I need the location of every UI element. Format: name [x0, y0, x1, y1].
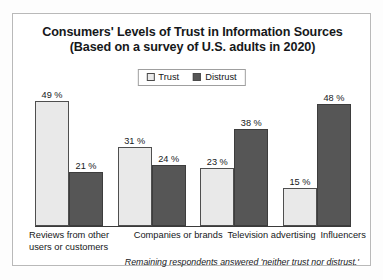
bar-value-reviews-trust: 49 %	[22, 90, 82, 100]
bar-influencers-distrust	[317, 104, 351, 226]
bar-wrap-influencers-distrust: 48 %	[317, 100, 351, 226]
category-label-influencers-line1: Influencers	[320, 230, 365, 240]
chart-page: Consumers' Levels of Trust in Informatio…	[0, 0, 383, 280]
bar-value-television-distrust: 38 %	[221, 118, 281, 128]
bar-group-companies: 31 % 24 %	[118, 100, 186, 226]
chart-title: Consumers' Levels of Trust in Informatio…	[13, 25, 372, 55]
legend-label-trust: Trust	[158, 72, 179, 82]
bar-reviews-distrust	[69, 172, 103, 226]
bar-group-influencers: 15 % 48 %	[283, 100, 351, 226]
bar-television-trust	[200, 168, 234, 226]
bar-influencers-trust	[283, 188, 317, 226]
category-label-reviews-line2: users or customers	[29, 242, 132, 254]
bar-group-television: 23 % 38 %	[200, 100, 268, 226]
legend-item-trust: Trust	[146, 72, 179, 82]
bar-value-reviews-distrust: 21 %	[56, 161, 116, 171]
x-axis-baseline	[35, 226, 351, 227]
bar-value-influencers-distrust: 48 %	[304, 93, 364, 103]
bar-groups: 49 % 21 % 31 % 24 %	[35, 100, 351, 226]
legend-label-distrust: Distrust	[205, 72, 237, 82]
chart-legend: Trust Distrust	[137, 69, 245, 86]
legend-item-distrust: Distrust	[193, 72, 237, 82]
bar-companies-distrust	[152, 165, 186, 226]
bar-wrap-reviews-distrust: 21 %	[69, 100, 103, 226]
chart-title-line1: Consumers' Levels of Trust in Informatio…	[42, 25, 342, 39]
bar-television-distrust	[234, 129, 268, 226]
legend-swatch-trust-icon	[146, 73, 154, 81]
category-label-television-line1: Television advertising	[227, 230, 315, 240]
chart-frame: Consumers' Levels of Trust in Informatio…	[12, 13, 371, 266]
category-label-companies: Companies or brands	[132, 230, 223, 253]
plot-area: 49 % 21 % 31 % 24 %	[35, 100, 351, 227]
category-label-influencers: Influencers	[319, 230, 367, 253]
legend-swatch-distrust-icon	[193, 73, 201, 81]
category-label-reviews-line1: Reviews from other	[29, 230, 109, 240]
bar-group-reviews: 49 % 21 %	[35, 100, 103, 226]
bar-wrap-companies-distrust: 24 %	[152, 100, 186, 226]
bar-wrap-television-distrust: 38 %	[234, 100, 268, 226]
category-label-reviews: Reviews from other users or customers	[27, 230, 132, 253]
chart-title-line2: (Based on a survey of U.S. adults in 202…	[13, 40, 372, 55]
category-label-companies-line1: Companies or brands	[134, 230, 223, 240]
chart-footnote: Remaining respondents answered 'neither …	[13, 257, 359, 267]
category-labels: Reviews from other users or customers Co…	[27, 230, 367, 253]
bar-wrap-influencers-trust: 15 %	[283, 100, 317, 226]
category-label-television: Television advertising	[224, 230, 319, 253]
